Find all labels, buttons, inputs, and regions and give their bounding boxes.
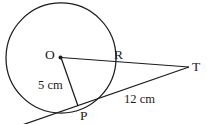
label-radius-measure: 5 cm [38, 78, 63, 92]
label-center-o: O [45, 47, 55, 62]
label-tangent-measure: 12 cm [124, 92, 155, 106]
line-o-r-t [61, 58, 189, 68]
diagram-canvas: O R T P 5 cm 12 cm [0, 0, 207, 124]
center-point-dot [59, 56, 63, 60]
label-point-t: T [192, 59, 201, 74]
label-point-p: P [80, 108, 88, 123]
geometry-diagram: O R T P 5 cm 12 cm [0, 0, 207, 124]
radius-line-o-p [61, 58, 78, 107]
label-point-r: R [114, 47, 123, 62]
